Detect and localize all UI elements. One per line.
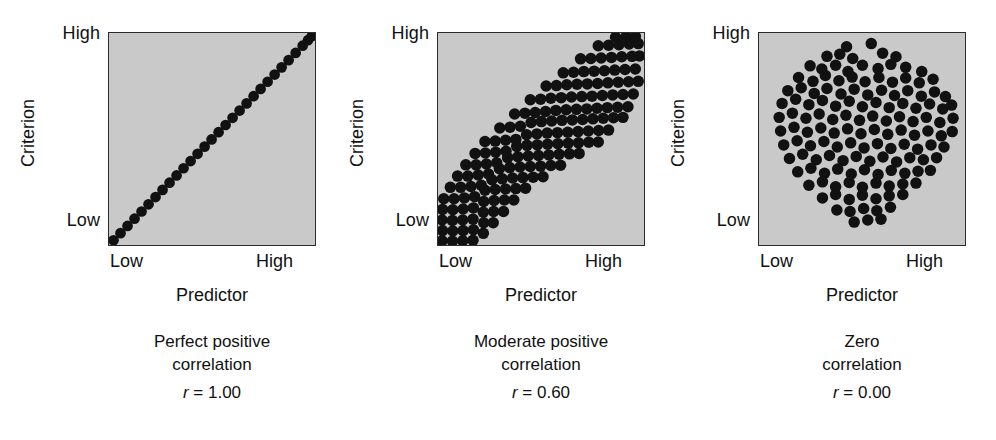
x-axis-title: Predictor	[108, 286, 316, 304]
x-axis-title: Predictor	[437, 286, 645, 304]
y-axis-high-label: High	[329, 24, 429, 42]
plot-area	[758, 32, 966, 246]
r-value: 0.60	[537, 383, 570, 402]
caption-r-line: r = 1.00	[58, 381, 366, 404]
r-equals: =	[189, 383, 208, 402]
scatter-canvas-perfect	[109, 33, 315, 245]
x-axis-high-label: High	[585, 252, 622, 270]
x-axis-high-label: High	[906, 252, 943, 270]
plot-area	[108, 32, 316, 246]
caption-line-1: Zero	[708, 330, 996, 353]
caption-line-2: correlation	[708, 353, 996, 376]
y-axis-low-label: Low	[650, 211, 750, 229]
x-axis-low-label: Low	[439, 252, 472, 270]
scatter-canvas-moderate	[438, 33, 644, 245]
panel-caption: Zero correlation r = 0.00	[708, 330, 996, 404]
scatter-canvas-zero	[759, 33, 965, 245]
panel-moderate-positive: High Low Criterion Low High Predictor Mo…	[329, 0, 661, 440]
panel-caption: Moderate positive correlation r = 0.60	[387, 330, 695, 404]
y-axis-high-label: High	[0, 24, 100, 42]
y-axis-low-label: Low	[0, 211, 100, 229]
y-axis-title: Criterion	[19, 53, 37, 213]
caption-r-line: r = 0.00	[708, 381, 996, 404]
y-axis-title: Criterion	[669, 53, 687, 213]
caption-r-line: r = 0.60	[387, 381, 695, 404]
y-axis-low-label: Low	[329, 211, 429, 229]
r-equals: =	[839, 383, 858, 402]
caption-line-2: correlation	[387, 353, 695, 376]
panel-caption: Perfect positive correlation r = 1.00	[58, 330, 366, 404]
r-value: 1.00	[208, 383, 241, 402]
x-axis-title: Predictor	[758, 286, 966, 304]
y-axis-high-label: High	[650, 24, 750, 42]
x-axis-low-label: Low	[760, 252, 793, 270]
plot-area	[437, 32, 645, 246]
panel-perfect-positive: High Low Criterion Low High Predictor Pe…	[0, 0, 332, 440]
x-axis-high-label: High	[256, 252, 293, 270]
x-axis-low-label: Low	[110, 252, 143, 270]
y-axis-title: Criterion	[348, 53, 366, 213]
caption-line-1: Moderate positive	[387, 330, 695, 353]
correlation-scatterplot-figure: High Low Criterion Low High Predictor Pe…	[0, 0, 996, 440]
caption-line-2: correlation	[58, 353, 366, 376]
r-equals: =	[518, 383, 537, 402]
r-value: 0.00	[858, 383, 891, 402]
panel-zero-correlation: High Low Criterion Low High Predictor Ze…	[650, 0, 982, 440]
caption-line-1: Perfect positive	[58, 330, 366, 353]
